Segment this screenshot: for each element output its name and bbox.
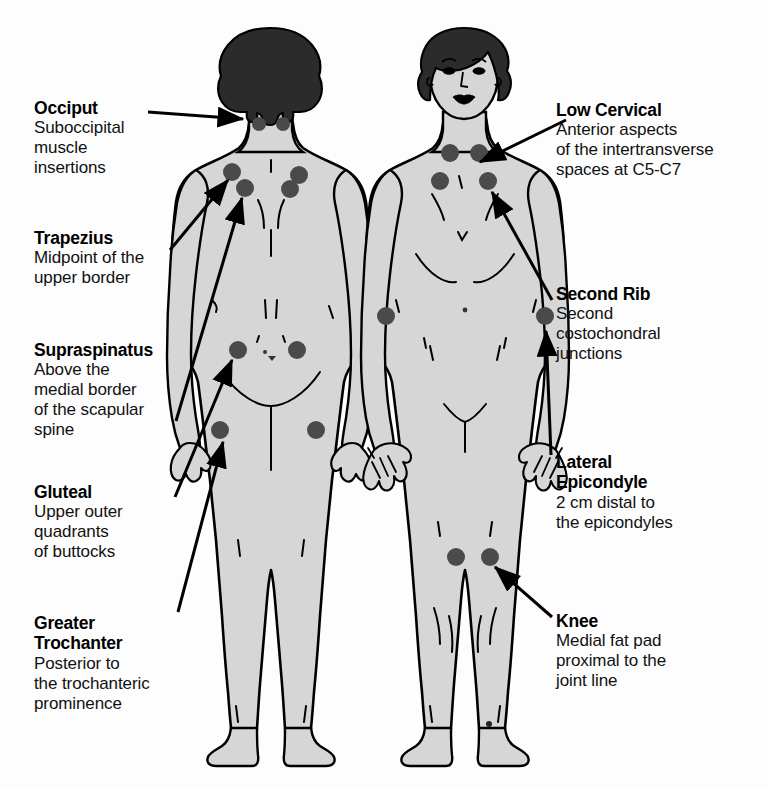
callout-occiput-line-3: insertions — [34, 158, 234, 178]
callout-low-cervical-line-2: of the intertransverse — [556, 140, 756, 160]
callout-gluteal-line-2: quadrants — [34, 522, 234, 542]
anterior-ankle-mark — [486, 721, 492, 727]
callout-lateral-epicondyle-title-2: Epicondyle — [556, 472, 756, 492]
callout-greater-trochanter-line-2: the trochanteric — [34, 674, 234, 694]
callout-trapezius-line-2: upper border — [34, 268, 234, 288]
callout-gluteal: Gluteal Upper outer quadrants of buttock… — [34, 482, 234, 562]
callout-low-cervical-line-3: spaces at C5-C7 — [556, 160, 756, 180]
callout-occiput-title: Occiput — [34, 98, 234, 118]
callout-trapezius-title: Trapezius — [34, 228, 234, 248]
anterior-left-foot — [401, 728, 452, 766]
posterior-right-foot — [284, 728, 335, 766]
callout-gluteal-title: Gluteal — [34, 482, 234, 502]
callout-second-rib: Second Rib Second costochondral junction… — [556, 284, 756, 364]
callout-knee: Knee Medial fat pad proximal to the join… — [556, 611, 756, 691]
callout-supraspinatus-line-2: medial border — [34, 380, 234, 400]
callout-supraspinatus-title: Supraspinatus — [34, 340, 234, 360]
callout-trapezius-line-1: Midpoint of the — [34, 248, 234, 268]
callout-supraspinatus-line-3: of the scapular — [34, 400, 234, 420]
callout-greater-trochanter-title: Greater — [34, 613, 234, 633]
callout-greater-trochanter-line-1: Posterior to — [34, 654, 234, 674]
callout-lateral-epicondyle-line-2: the epicondyles — [556, 513, 756, 533]
tender-point-lateral-epi-right — [536, 307, 554, 325]
callout-second-rib-line-1: Second — [556, 304, 756, 324]
callout-lateral-epicondyle-title: Lateral — [556, 452, 756, 472]
callout-second-rib-title: Second Rib — [556, 284, 756, 304]
tender-point-supraspinatus-left — [236, 179, 254, 197]
fibromyalgia-tender-points-diagram: Occiput Suboccipital muscle insertions T… — [0, 0, 768, 787]
tender-point-low-cervical-left — [441, 144, 459, 162]
callout-lateral-epicondyle: Lateral Epicondyle 2 cm distal to the ep… — [556, 452, 756, 533]
callout-supraspinatus-line-4: spine — [34, 420, 234, 440]
callout-low-cervical-title: Low Cervical — [556, 100, 756, 120]
callout-knee-line-2: proximal to the — [556, 651, 756, 671]
callout-occiput-line-1: Suboccipital — [34, 118, 234, 138]
callout-second-rib-line-3: junctions — [556, 344, 756, 364]
anterior-right-foot — [478, 728, 529, 766]
tender-point-occiput-left — [252, 117, 266, 131]
tender-point-second-rib-right — [479, 172, 497, 190]
callout-supraspinatus-line-1: Above the — [34, 360, 234, 380]
callout-greater-trochanter-line-3: prominence — [34, 694, 234, 714]
callout-knee-line-1: Medial fat pad — [556, 631, 756, 651]
tender-point-trochanter-right — [307, 421, 325, 439]
callout-knee-line-3: joint line — [556, 671, 756, 691]
anterior-view-figure — [361, 28, 569, 766]
callout-greater-trochanter-title-2: Trochanter — [34, 633, 234, 653]
tender-point-second-rib-left — [431, 172, 449, 190]
callout-gluteal-line-1: Upper outer — [34, 502, 234, 522]
callout-supraspinatus: Supraspinatus Above the medial border of… — [34, 340, 234, 440]
tender-point-gluteal-right — [288, 341, 306, 359]
callout-low-cervical-line-1: Anterior aspects — [556, 120, 756, 140]
tender-point-knee-right — [481, 548, 499, 566]
callout-trapezius: Trapezius Midpoint of the upper border — [34, 228, 234, 288]
tender-point-knee-left — [447, 548, 465, 566]
callout-greater-trochanter: Greater Trochanter Posterior to the troc… — [34, 613, 234, 714]
callout-low-cervical: Low Cervical Anterior aspects of the int… — [556, 100, 756, 180]
tender-point-occiput-right — [276, 117, 290, 131]
tender-point-supraspinatus-right — [281, 180, 299, 198]
callout-second-rib-line-2: costochondral — [556, 324, 756, 344]
tender-point-lateral-epi-left — [377, 307, 395, 325]
callout-occiput-line-2: muscle — [34, 138, 234, 158]
callout-occiput: Occiput Suboccipital muscle insertions — [34, 98, 234, 178]
posterior-left-foot — [207, 728, 258, 766]
callout-lateral-epicondyle-line-1: 2 cm distal to — [556, 493, 756, 513]
callout-gluteal-line-3: of buttocks — [34, 542, 234, 562]
callout-knee-title: Knee — [556, 611, 756, 631]
